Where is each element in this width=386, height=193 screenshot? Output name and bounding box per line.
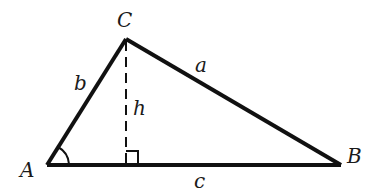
vertex-label-c: C [117,8,132,32]
side-b [47,39,126,165]
angle-a-arc [58,147,69,164]
side-label-b: b [74,71,87,95]
altitude-label-h: h [133,96,146,120]
side-label-c: c [194,169,205,193]
side-label-a: a [195,53,207,77]
side-a [126,39,341,165]
vertex-label-b: B [346,144,362,168]
right-angle-marker [126,151,138,164]
vertex-label-a: A [18,158,34,182]
triangle-diagram: C A B b a c h [0,0,386,193]
